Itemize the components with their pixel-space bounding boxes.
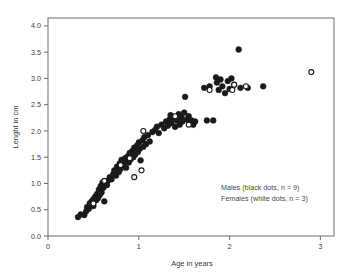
data-point-female — [309, 70, 314, 75]
data-point-male — [147, 139, 153, 145]
data-point-male — [101, 198, 107, 204]
y-tick-label: 3.5 — [31, 48, 41, 57]
data-point-female — [230, 87, 235, 92]
data-point-male — [222, 90, 228, 96]
data-point-female — [102, 178, 107, 183]
y-tick-label: 0.0 — [31, 232, 41, 241]
data-point-female — [186, 122, 191, 127]
data-point-male — [218, 77, 224, 83]
y-axis-label: Lenght in cm — [11, 106, 20, 149]
data-point-female — [132, 175, 137, 180]
x-tick-label: 1 — [137, 242, 141, 251]
data-point-male — [123, 165, 129, 171]
data-point-female — [232, 82, 237, 87]
figure-background — [0, 0, 349, 275]
data-point-female — [207, 87, 212, 92]
legend-entry-males: Males (black dots, n = 9) — [221, 183, 300, 192]
data-point-male — [236, 47, 242, 53]
y-tick-label: 0.5 — [31, 205, 41, 214]
legend-entry-females: Females (white dots, n = 3) — [221, 194, 308, 203]
data-point-female — [91, 201, 96, 206]
data-point-female — [141, 128, 146, 133]
data-point-male — [201, 85, 207, 91]
data-point-female — [118, 163, 123, 168]
data-point-male — [138, 157, 144, 163]
y-tick-label: 2.0 — [31, 127, 41, 136]
data-point-male — [260, 83, 266, 89]
data-point-male — [219, 83, 225, 89]
data-point-male — [156, 130, 162, 136]
data-point-male — [229, 76, 235, 82]
data-point-female — [139, 168, 144, 173]
y-tick-label: 2.5 — [31, 100, 41, 109]
data-point-male — [204, 118, 210, 124]
x-tick-label: 0 — [46, 242, 50, 251]
data-point-male — [182, 94, 188, 100]
x-axis-label: Age in years — [171, 259, 213, 268]
data-point-male — [238, 85, 244, 91]
x-tick-label: 2 — [228, 242, 232, 251]
data-point-female — [243, 84, 248, 89]
y-tick-label: 3.0 — [31, 74, 41, 83]
data-point-female — [127, 156, 132, 161]
x-tick-label: 3 — [318, 242, 322, 251]
y-tick-label: 1.0 — [31, 179, 41, 188]
y-tick-label: 4.0 — [31, 21, 41, 30]
scatter-plot-figure: 0.00.51.01.52.02.53.03.54.0 0123 Age in … — [0, 0, 349, 275]
plot-canvas: 0.00.51.01.52.02.53.03.54.0 0123 Age in … — [0, 0, 349, 275]
data-point-male — [192, 119, 198, 125]
y-tick-label: 1.5 — [31, 153, 41, 162]
data-point-male — [210, 118, 216, 124]
data-point-female — [173, 114, 178, 119]
